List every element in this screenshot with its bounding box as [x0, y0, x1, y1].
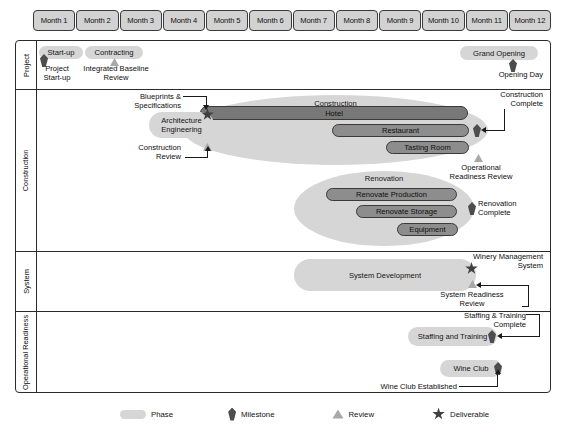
legend-item-review: Review	[332, 410, 374, 419]
connector-construction-review-v	[207, 150, 208, 158]
label-renovation-complete-line2: Complete	[478, 208, 511, 217]
label-staffing-training-complete-line1: Staffing & Training	[410, 311, 526, 320]
phase-staffing-and-training[interactable]: Staffing and Training	[408, 327, 497, 346]
connector-system-readiness-arrow	[476, 282, 481, 288]
label-system-readiness-review-line2: Review	[421, 299, 523, 308]
activity-restaurant[interactable]: Restaurant	[332, 124, 469, 137]
label-construction-review-line2: Review	[95, 152, 181, 161]
connector-staffing-h-bottom	[502, 336, 540, 337]
month-cell-10[interactable]: Month 10	[422, 10, 464, 31]
connector-staffing-arrow	[497, 333, 502, 339]
legend: Phase Milestone Review Deliverable	[15, 404, 551, 424]
month-cell-9[interactable]: Month 9	[379, 10, 421, 31]
connector-system-readiness-h-bottom	[522, 306, 529, 307]
activity-equipment[interactable]: Equipment	[397, 223, 458, 236]
label-integrated-baseline-review-line1: Integrated Baseline	[70, 64, 162, 73]
connector-construction-review-arrow	[205, 146, 211, 151]
review-operational-readiness-icon[interactable]	[474, 154, 483, 162]
label-construction-complete-line2: Complete	[455, 99, 543, 108]
deliverable-swatch-icon	[432, 408, 445, 421]
month-cell-2[interactable]: Month 2	[76, 10, 118, 31]
legend-item-phase: Phase	[120, 410, 173, 419]
legend-label-milestone: Milestone	[241, 410, 274, 419]
legend-label-phase: Phase	[151, 410, 173, 419]
connector-system-readiness-v	[528, 285, 529, 307]
label-blueprints-line1: Blueprints &	[95, 92, 181, 101]
label-winery-management-system-line2: System	[415, 261, 543, 270]
connector-construction-complete-arrow	[481, 127, 486, 133]
month-cell-5[interactable]: Month 5	[206, 10, 248, 31]
legend-label-deliverable: Deliverable	[450, 410, 489, 419]
phase-contracting[interactable]: Contracting	[85, 46, 143, 59]
legend-item-milestone: Milestone	[228, 408, 274, 421]
label-construction-review-line1: Construction	[95, 143, 181, 152]
phase-swatch-icon	[120, 410, 146, 419]
label-system-readiness-review-line1: System Readiness	[421, 290, 523, 299]
month-cell-7[interactable]: Month 7	[293, 10, 335, 31]
connector-construction-complete-v	[504, 109, 505, 130]
month-cell-1[interactable]: Month 1	[33, 10, 75, 31]
label-wine-club-established: Wine Club Established	[365, 382, 457, 391]
month-cell-6[interactable]: Month 6	[249, 10, 291, 31]
connector-staffing-h-top	[526, 314, 540, 315]
label-integrated-baseline-review-line2: Review	[70, 73, 162, 82]
phase-wine-club[interactable]: Wine Club	[440, 360, 502, 377]
milestone-swatch-icon	[228, 408, 236, 421]
label-staffing-training-complete-line2: Complete	[410, 320, 526, 329]
label-renovation-complete-line1: Renovation	[478, 199, 516, 208]
review-swatch-icon	[332, 410, 343, 419]
connector-system-readiness-h-top	[481, 285, 529, 286]
phase-grand-opening[interactable]: Grand Opening	[460, 46, 538, 60]
label-blueprints-line2: Specifications	[95, 101, 181, 110]
legend-item-deliverable: Deliverable	[432, 408, 489, 421]
activity-renovate-production[interactable]: Renovate Production	[326, 188, 457, 201]
connector-staffing-v	[539, 314, 540, 337]
connector-wine-club-h	[459, 386, 498, 387]
connector-construction-complete-h	[485, 130, 505, 131]
legend-label-review: Review	[348, 410, 374, 419]
month-cell-3[interactable]: Month 3	[120, 10, 162, 31]
connector-blueprints-h	[183, 96, 207, 97]
label-construction-complete-line1: Construction	[455, 90, 543, 99]
project-roadmap-chart: Month 1 Month 2 Month 3 Month 4 Month 5 …	[0, 0, 562, 434]
activity-renovate-storage[interactable]: Renovate Storage	[356, 205, 457, 218]
phase-architecture-engineering[interactable]: Architecture Engineering	[149, 112, 214, 138]
label-winery-management-system-line1: Winery Management	[415, 252, 543, 261]
label-opening-day: Opening Day	[445, 70, 543, 79]
month-cell-8[interactable]: Month 8	[336, 10, 378, 31]
month-cell-4[interactable]: Month 4	[163, 10, 205, 31]
month-header: Month 1 Month 2 Month 3 Month 4 Month 5 …	[33, 10, 551, 31]
month-cell-12[interactable]: Month 12	[509, 10, 551, 31]
plot-area: Start-up Contracting Grand Opening Proje…	[15, 40, 551, 393]
label-operational-readiness-review-line2: Readiness Review	[433, 172, 529, 181]
connector-blueprints-arrow	[203, 105, 209, 110]
label-operational-readiness-review-line1: Operational	[433, 163, 529, 172]
connector-wine-club-v	[497, 372, 498, 386]
connector-wine-club-arrow	[495, 369, 501, 374]
connector-construction-review-h	[185, 157, 208, 158]
month-cell-11[interactable]: Month 11	[466, 10, 508, 31]
activity-hotel[interactable]: Hotel	[200, 106, 468, 120]
activity-tasting-room[interactable]: Tasting Room	[386, 141, 469, 154]
